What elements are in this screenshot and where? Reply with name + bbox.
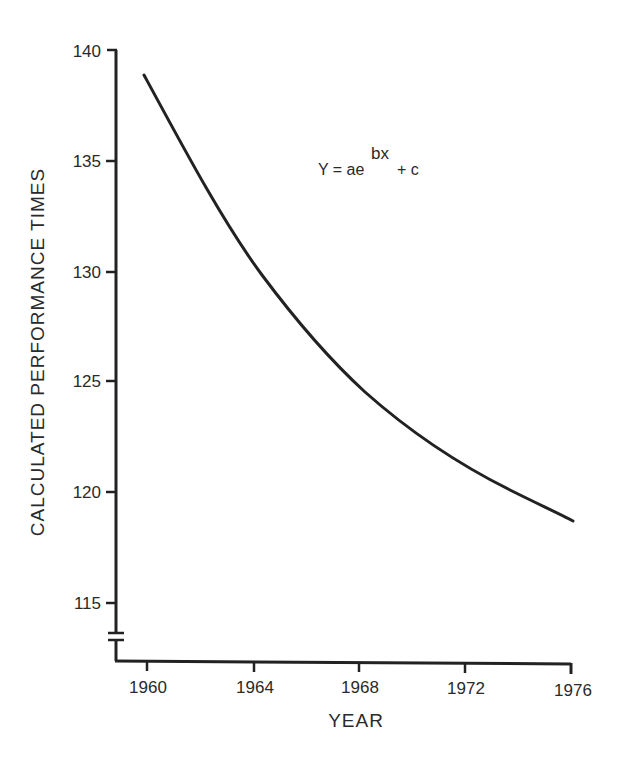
y-tick-label-125: 125 [73, 372, 101, 391]
y-axis-title: CALCULATED PERFORMANCE TIMES [27, 168, 48, 536]
y-tick-label-130: 130 [73, 263, 101, 282]
equation-main: Y = ae [318, 161, 365, 178]
y-tick-label-120: 120 [73, 483, 101, 502]
x-tick-label-1960: 1960 [129, 678, 167, 697]
y-tick-label-135: 135 [73, 152, 101, 171]
chart-canvas: 140 135 130 125 120 115 1960 1964 1968 1… [0, 0, 623, 765]
x-tick-label-1964: 1964 [236, 678, 274, 697]
data-curve [144, 75, 573, 521]
x-tick-label-1976: 1976 [554, 681, 592, 700]
equation-tail: + c [397, 161, 419, 178]
y-tick-label-115: 115 [74, 594, 101, 613]
x-axis [115, 661, 571, 664]
equation-exponent: bx [371, 144, 389, 163]
x-tick-label-1968: 1968 [341, 678, 379, 697]
y-tick-label-140: 140 [73, 42, 101, 61]
x-tick-label-1972: 1972 [447, 679, 485, 698]
x-axis-title: YEAR [328, 710, 384, 731]
